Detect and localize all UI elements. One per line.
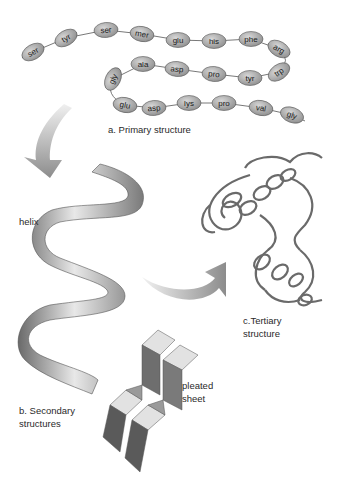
- amino-acid-bead: asp: [141, 99, 166, 116]
- secondary-structures-label-line2: structures: [19, 418, 61, 430]
- amino-acid-bead: trp: [265, 59, 293, 85]
- curved-arrow-down-icon: [24, 104, 72, 178]
- svg-text:pro: pro: [218, 99, 230, 108]
- secondary-structures-label-line1: b. Secondary: [19, 405, 75, 417]
- curved-arrow-right-icon: [142, 262, 226, 300]
- amino-acid-bead: asp: [164, 60, 189, 77]
- tertiary-structure-label-line1: c.Tertiary: [243, 315, 282, 327]
- svg-text:asp: asp: [147, 103, 161, 113]
- pleated-sheet-label-line1: pleated: [182, 380, 213, 392]
- amino-acid-bead: pro: [201, 65, 226, 82]
- svg-text:lys: lys: [184, 99, 194, 108]
- primary-structure-label: a. Primary structure: [108, 124, 191, 136]
- svg-text:asp: asp: [170, 64, 184, 74]
- amino-acid-bead: gly: [101, 65, 125, 93]
- amino-acid-bead: gly: [278, 104, 306, 126]
- svg-text:ser: ser: [100, 25, 112, 35]
- svg-text:tyr: tyr: [246, 74, 255, 83]
- helix-label: helix: [19, 216, 39, 228]
- amino-acid-bead: tyr: [52, 26, 80, 51]
- svg-text:glu: glu: [119, 100, 131, 111]
- svg-text:ala: ala: [138, 60, 149, 69]
- amino-acid-bead: glu: [166, 33, 190, 48]
- amino-acid-bead: phe: [239, 32, 263, 47]
- amino-acid-bead: lys: [177, 96, 201, 111]
- amino-acid-bead: tyr: [238, 71, 262, 86]
- amino-acid-bead: val: [248, 99, 274, 118]
- svg-text:pro: pro: [208, 69, 221, 79]
- svg-text:glu: glu: [173, 36, 184, 45]
- svg-text:phe: phe: [244, 35, 258, 44]
- amino-acid-bead: ser: [93, 21, 118, 38]
- tertiary-structure-label-line2: structure: [243, 328, 280, 340]
- svg-text:val: val: [255, 103, 267, 114]
- amino-acid-bead: ala: [131, 57, 155, 72]
- alpha-helix-ribbon: [18, 164, 143, 394]
- amino-acid-bead: glu: [112, 96, 138, 115]
- svg-text:his: his: [209, 37, 219, 46]
- amino-acid-bead: mer: [129, 25, 155, 44]
- amino-acid-bead: pro: [212, 96, 236, 111]
- amino-acid-bead: arg: [265, 37, 293, 62]
- amino-acid-bead: his: [202, 34, 226, 49]
- amino-acid-bead: ser: [19, 40, 47, 65]
- pleated-sheet-label-line2: sheet: [182, 393, 205, 405]
